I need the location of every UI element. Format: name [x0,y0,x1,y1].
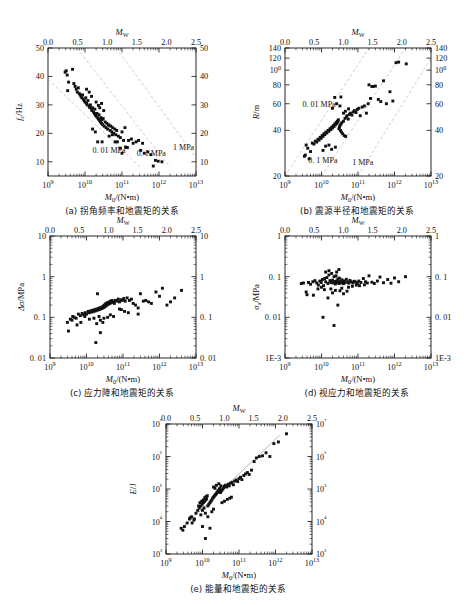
data-point [86,99,89,102]
y-tick-label-right: 0. 1 [435,273,447,282]
x-axis-title: M0/(N•m) [221,570,256,581]
data-point [158,295,161,298]
panel-b-plot: 10910101011101210130.00.51.01.52.02.5MW1… [251,27,447,217]
data-point [139,292,142,295]
data-point [253,460,256,463]
data-point [209,527,212,530]
data-point [212,508,215,511]
y-tick-label: 1 [277,232,281,241]
data-point [191,522,194,525]
data-point [265,451,268,454]
data-point [194,512,197,515]
data-point [123,126,126,129]
y-tick-label-right: 50 [200,44,208,53]
mw-tick-label: 1.5 [132,226,142,235]
data-point [393,277,396,280]
x-tick-label: 1012 [152,360,166,371]
y-tick-label-right: 10³ [316,548,326,559]
data-point [350,114,353,117]
figure-root: 10910101011101210130.00.51.01.52.02.5MW5… [0,0,472,605]
data-point [225,486,228,489]
y-tick-label: 0. 1 [34,313,46,322]
data-point [379,100,382,103]
data-point [395,61,398,64]
y-axis-title: E/J [128,483,138,496]
data-point [330,148,333,151]
y-tick-label-right: 0. 01 [200,354,216,363]
stress-drop-annotation: 0. 1 MPa [137,149,167,158]
y-tick-label: 60 [273,100,281,109]
data-point [132,142,135,145]
data-point [204,537,207,540]
data-point [199,513,202,516]
data-point [108,135,111,138]
y-tick-label: 0. 01 [265,313,281,322]
mw-axis-title: MW [114,27,128,38]
data-point [320,286,323,289]
data-point [95,101,98,104]
x-tick-label: 1010 [314,178,328,189]
data-point [85,88,88,91]
data-point [135,140,138,143]
x-tick-label: 1010 [78,178,92,189]
data-point [219,484,222,487]
data-point [347,107,350,110]
data-point [130,298,133,301]
data-points [303,61,408,161]
mw-tick-label: 1.0 [338,38,348,47]
data-point [333,324,336,327]
mw-axis-title: MW [115,215,129,226]
panel-caption: (e) 能量和地震矩的关系 [190,583,286,594]
data-point [74,85,77,88]
data-point [345,278,348,281]
data-point [66,89,69,92]
mw-tick-label: 1.0 [103,226,113,235]
data-point [322,149,325,152]
mw-tick-label: 1.5 [367,38,377,47]
x-tick-label: 1011 [351,178,365,189]
data-point [359,281,362,284]
data-point [309,283,312,286]
mw-tick-label: 2.0 [397,38,407,47]
data-point [96,292,99,295]
data-point [122,139,125,142]
y-tick-label-right: 30 [200,101,208,110]
mw-tick-label: 2.0 [278,414,288,423]
mw-tick-label: 2.0 [162,226,172,235]
data-point [325,276,328,279]
x-tick-label: 1010 [314,360,328,371]
mw-tick-label: 2.0 [397,226,407,235]
data-point [355,111,358,114]
panel-a-plot: 10910101011101210130.00.51.01.52.02.5MW5… [14,27,208,217]
x-axis-title: M0/(N•m) [340,192,375,203]
x-tick-label: 109 [42,178,53,189]
data-point [114,133,117,136]
data-point [71,319,74,322]
panel-c: 10910101011101210130.00.51.01.52.02.5MW1… [8,212,236,397]
data-point [123,310,126,313]
data-point [333,96,336,99]
data-point [81,93,84,96]
data-point [268,455,271,458]
data-point [161,287,164,290]
data-point [197,505,200,508]
data-point [312,294,315,297]
mw-axis-title: MW [350,215,364,226]
y-tick-label-right: 40 [200,72,208,81]
data-point [272,442,275,445]
data-point [94,341,97,344]
x-tick-label: 1012 [387,178,401,189]
data-point [305,144,308,147]
y-tick-label-right: 10 [200,232,208,241]
x-tick-label: 109 [44,360,55,371]
x-tick-label: 1011 [232,556,246,567]
data-point [302,282,305,285]
x-tick-label: 109 [279,360,290,371]
data-point [120,308,123,311]
mw-axis-title: MW [350,27,364,38]
panel-e-plot: 10910101011101210130.00.51.01.52.02.5MW1… [128,403,326,595]
mw-axis-title: MW [231,403,245,414]
data-point [336,304,339,307]
y-tick-label-right: 10⁵ [316,483,326,494]
mw-tick-label: 0.0 [280,226,290,235]
